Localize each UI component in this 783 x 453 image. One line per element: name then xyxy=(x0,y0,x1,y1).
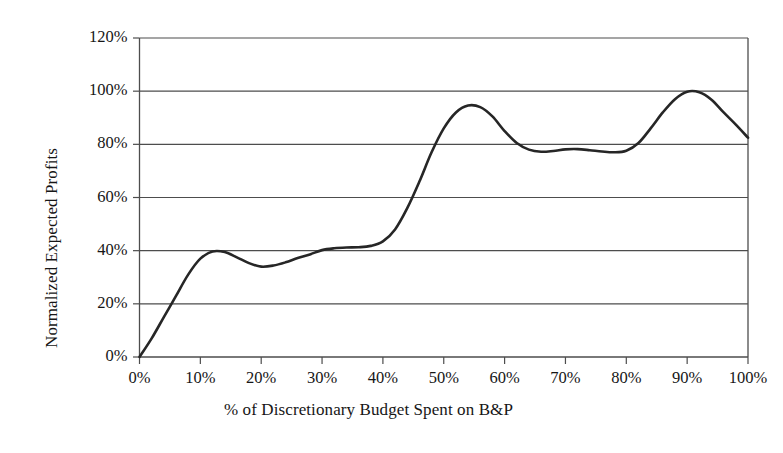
chart-figure: Normalized Expected Profits % of Discret… xyxy=(0,0,783,453)
y-tick-label: 100% xyxy=(64,80,128,100)
x-tick-label: 20% xyxy=(231,368,291,388)
x-axis-title: % of Discretionary Budget Spent on B&P xyxy=(224,400,513,420)
y-tick-label: 80% xyxy=(64,133,128,153)
gridlines-group xyxy=(140,38,749,357)
x-tick-label: 60% xyxy=(475,368,535,388)
x-tick-label: 70% xyxy=(535,368,595,388)
x-tick-label: 90% xyxy=(657,368,717,388)
x-tick-label: 100% xyxy=(718,368,778,388)
y-tick-label: 20% xyxy=(64,293,128,313)
x-tick-label: 40% xyxy=(353,368,413,388)
x-tick-label: 10% xyxy=(170,368,230,388)
ticks-group xyxy=(133,38,748,364)
y-tick-label: 40% xyxy=(64,240,128,260)
x-tick-label: 0% xyxy=(110,368,170,388)
x-tick-label: 50% xyxy=(414,368,474,388)
x-tick-label: 80% xyxy=(596,368,656,388)
y-tick-label: 60% xyxy=(64,187,128,207)
x-tick-label: 30% xyxy=(292,368,352,388)
y-axis-title: Normalized Expected Profits xyxy=(42,148,62,348)
y-tick-label: 120% xyxy=(64,27,128,47)
y-tick-label: 0% xyxy=(64,346,128,366)
data-series-line xyxy=(140,91,749,357)
